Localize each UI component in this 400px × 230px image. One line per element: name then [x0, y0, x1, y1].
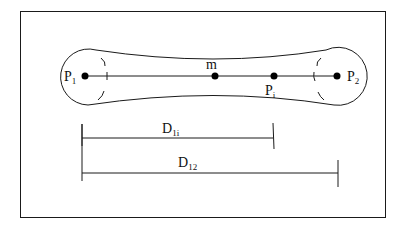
right-inner-arc-bottom [318, 92, 324, 100]
point-m-dot [212, 73, 219, 80]
left-inner-arc-bottom [98, 91, 104, 100]
capsule-bottom-edge [88, 96, 334, 106]
frame-border [21, 12, 386, 218]
diagram-figure: P1 m Pi P2 D1i D12 [0, 0, 400, 230]
label-p1: P1 [64, 69, 76, 86]
label-p2: P2 [347, 69, 359, 86]
left-inner-arc-top [101, 58, 105, 66]
d1i-right-tick [273, 123, 274, 149]
label-m: m [206, 57, 217, 72]
dimension-d12 [82, 124, 338, 187]
label-d1i: D1i [162, 121, 180, 138]
label-pi: Pi [265, 83, 276, 100]
point-p2-dot [334, 73, 341, 80]
point-p1-dot [82, 73, 89, 80]
point-pi-dot [271, 73, 278, 80]
label-d12: D12 [178, 155, 197, 172]
right-inner-arc-top [317, 58, 321, 66]
